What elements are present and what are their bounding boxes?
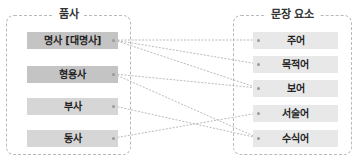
node-noun: 명사 [대명사] (27, 32, 118, 49)
node-adjective: 형용사 (27, 66, 118, 83)
node-adverb: 부사 (27, 98, 118, 115)
connector-dot-icon (257, 137, 260, 140)
node-noun-label: 명사 [대명사] (44, 35, 102, 46)
node-verb-label: 동사 (64, 133, 82, 144)
connector-dot-icon (257, 112, 260, 115)
node-subject: 주어 (253, 32, 338, 49)
connector-dot-icon (112, 73, 115, 76)
connector-dot-icon (257, 39, 260, 42)
connector-dot-icon (257, 63, 260, 66)
node-predicate-label: 서술어 (282, 108, 309, 119)
connector-dot-icon (257, 87, 260, 90)
node-adjective-label: 형용사 (59, 69, 86, 80)
connector-dot-icon (112, 105, 115, 108)
parts-of-speech-title: 품사 (54, 7, 84, 23)
connector-dot-icon (112, 137, 115, 140)
node-modifier: 수식어 (253, 130, 338, 147)
node-complement: 보어 (253, 80, 338, 97)
node-complement-label: 보어 (287, 83, 305, 94)
node-object: 목적어 (253, 56, 338, 73)
sentence-elements-title: 문장 요소 (266, 7, 320, 23)
node-object-label: 목적어 (282, 59, 309, 70)
node-predicate: 서술어 (253, 105, 338, 122)
connector-dot-icon (112, 39, 115, 42)
node-verb: 동사 (27, 130, 118, 147)
node-modifier-label: 수식어 (282, 133, 309, 144)
node-adverb-label: 부사 (64, 101, 82, 112)
node-subject-label: 주어 (287, 35, 305, 46)
